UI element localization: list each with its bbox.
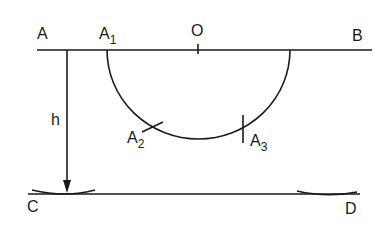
semicircle [107, 50, 290, 139]
label-c: C [27, 199, 39, 215]
arrowhead-h [63, 180, 71, 193]
label-h: h [51, 112, 60, 128]
label-a2: A2 [127, 130, 144, 146]
label-a3: A3 [250, 133, 267, 149]
label-a: A [37, 26, 48, 42]
label-b: B [352, 28, 363, 44]
label-d: D [345, 201, 357, 217]
label-a1: A1 [99, 26, 116, 42]
label-o: O [191, 23, 203, 39]
